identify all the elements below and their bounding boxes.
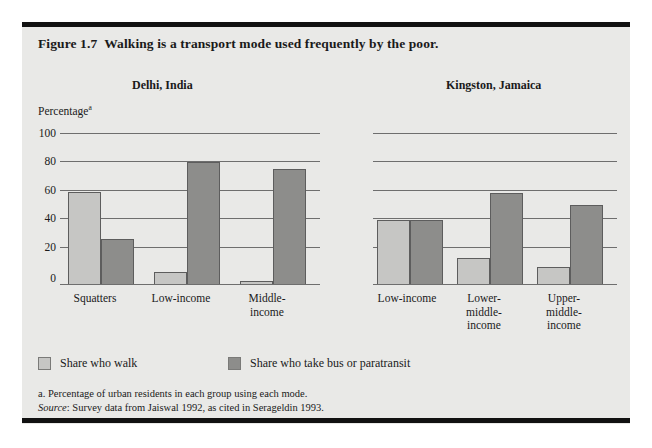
bar-group-lower-middle-income: [457, 132, 523, 284]
x-label-upper-middle-income: Upper- middle- income: [528, 292, 600, 333]
figure-number: Figure 1.7: [38, 36, 97, 51]
bar-upper-middle-income-walk: [537, 267, 570, 284]
bar-group-middle-income-delhi: [240, 132, 306, 284]
y-tick-100: 100: [30, 127, 56, 139]
bar-middle-income-delhi-walk: [240, 281, 273, 284]
y-tick-20: 20: [30, 241, 56, 253]
figure-title: Figure 1.7Walking is a transport mode us…: [38, 36, 438, 52]
bar-lower-middle-income-walk: [457, 258, 490, 284]
figure-footnote: a. Percentage of urban residents in each…: [38, 388, 307, 399]
plot-area-kingston: [373, 120, 617, 285]
plot-area-delhi: [60, 120, 320, 285]
figure-title-text: Walking is a transport mode used frequen…: [104, 36, 438, 51]
panel-heading-kingston: Kingston, Jamaica: [446, 78, 541, 93]
bar-squatters-transit: [101, 239, 134, 284]
panel-heading-delhi: Delhi, India: [132, 78, 193, 93]
legend-swatch-walk-icon: [38, 357, 51, 370]
legend-swatch-transit-icon: [228, 357, 241, 370]
bar-low-income-delhi-walk: [154, 272, 187, 284]
bar-squatters-walk: [68, 192, 101, 284]
figure-source: Source: Survey data from Jaiswal 1992, a…: [38, 402, 324, 413]
bar-low-income-delhi-transit: [187, 162, 220, 284]
y-tick-80: 80: [30, 155, 56, 167]
bar-group-low-income-delhi: [154, 132, 220, 284]
y-axis-title-superscript: a: [88, 103, 91, 112]
x-label-squatters: Squatters: [55, 292, 135, 306]
x-label-middle-income-delhi: Middle- income: [226, 292, 308, 319]
bar-middle-income-delhi-transit: [273, 169, 306, 284]
y-tick-0: 0: [30, 272, 56, 284]
source-text: : Survey data from Jaiswal 1992, as cite…: [67, 402, 324, 413]
y-axis-title-text: Percentage: [38, 105, 88, 117]
bar-group-upper-middle-income: [537, 132, 603, 284]
baseline-kingston: [373, 284, 617, 285]
x-label-lower-middle-income: Lower- middle- income: [448, 292, 520, 333]
bar-upper-middle-income-transit: [570, 205, 603, 284]
bar-group-low-income-kingston: [377, 132, 443, 284]
y-tick-60: 60: [30, 184, 56, 196]
legend-item-walk: Share who walk: [38, 356, 137, 371]
top-rule: [22, 22, 630, 27]
legend-label-transit: Share who take bus or paratransit: [250, 356, 410, 371]
figure-root: Figure 1.7Walking is a transport mode us…: [0, 0, 652, 448]
bar-group-squatters: [68, 132, 134, 284]
bar-low-income-kingston-transit: [410, 220, 443, 284]
bar-lower-middle-income-transit: [490, 193, 523, 284]
y-axis-title: Percentagea: [38, 103, 92, 117]
bar-low-income-kingston-walk: [377, 220, 410, 284]
legend-label-walk: Share who walk: [60, 356, 137, 371]
baseline-delhi: [60, 284, 320, 285]
x-label-low-income-delhi: Low-income: [140, 292, 222, 306]
source-word: Source: [38, 402, 67, 413]
bottom-rule: [22, 418, 630, 423]
legend-item-transit: Share who take bus or paratransit: [228, 356, 410, 371]
y-tick-40: 40: [30, 212, 56, 224]
x-label-low-income-kingston: Low-income: [366, 292, 448, 306]
